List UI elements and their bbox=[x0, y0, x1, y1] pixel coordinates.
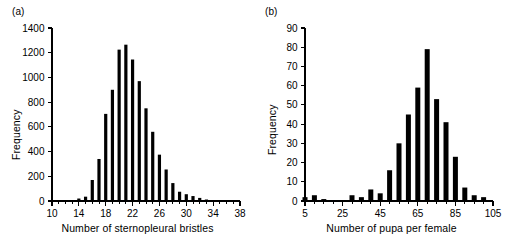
panel-a-bar bbox=[91, 180, 94, 201]
panel-a-y-tick-label: 400 bbox=[28, 146, 45, 157]
panel-a-bar bbox=[104, 114, 107, 201]
panel-b-bar bbox=[434, 99, 439, 201]
panel-a-bar bbox=[191, 196, 194, 201]
panel-a-bar bbox=[77, 199, 80, 201]
panel-a-bar bbox=[144, 108, 147, 201]
panel-a-y-axis-label: Frequency bbox=[10, 109, 22, 160]
panel-a-x-tick-label: 34 bbox=[208, 208, 220, 219]
panel-b-x-axis-label: Number of pupa per female bbox=[253, 222, 506, 234]
panel-b-x-tick-label: 5 bbox=[302, 208, 308, 219]
panel-a-x-tick-label: 18 bbox=[100, 208, 112, 219]
panel-a-bar bbox=[165, 169, 168, 201]
panel-a-bar bbox=[171, 183, 174, 201]
panel-b-y-tick-label: 60 bbox=[286, 80, 298, 91]
panel-b-bar bbox=[368, 189, 373, 201]
panel-a-y-tick-label: 200 bbox=[28, 171, 45, 182]
panel-b-bar bbox=[350, 195, 355, 201]
panel-a-bar bbox=[151, 132, 154, 201]
panel-b-bar bbox=[303, 197, 308, 201]
panel-a-x-tick-label: 38 bbox=[234, 208, 246, 219]
panel-a-bar bbox=[138, 81, 141, 201]
panel-b-bar bbox=[453, 157, 458, 201]
panel-b-bar bbox=[481, 197, 486, 201]
panel-a-bar bbox=[118, 50, 121, 201]
panel-b-y-tick-label: 70 bbox=[286, 61, 298, 72]
panel-b-y-axis-label: Frequency bbox=[266, 104, 278, 155]
panel-b-y-tick-label: 30 bbox=[286, 138, 298, 149]
panel-a-y-tick-label: 1400 bbox=[22, 23, 45, 34]
panel-b-x-tick-label: 65 bbox=[412, 208, 424, 219]
panel-a-bar bbox=[158, 155, 161, 201]
panel-a: (a) Frequency Number of sternopleural br… bbox=[0, 0, 253, 244]
panel-a-y-tick-label: 0 bbox=[39, 196, 45, 207]
panel-b-x-tick-label: 105 bbox=[485, 208, 502, 219]
panel-a-bar bbox=[198, 198, 201, 201]
panel-b: (b) Frequency Number of pupa per female … bbox=[253, 0, 506, 244]
panel-b-bar bbox=[397, 143, 402, 201]
panel-b-chart-svg: 0102030405060708090525456585105 bbox=[305, 28, 493, 201]
panel-b-bar bbox=[406, 115, 411, 202]
panel-b-y-tick-label: 80 bbox=[286, 42, 298, 53]
panel-a-x-tick-label: 22 bbox=[127, 208, 139, 219]
panel-a-bar bbox=[111, 90, 114, 201]
panel-b-x-tick-label: 85 bbox=[450, 208, 462, 219]
figure-container: (a) Frequency Number of sternopleural br… bbox=[0, 0, 507, 244]
panel-b-y-tick-label: 10 bbox=[286, 176, 298, 187]
panel-a-y-tick-label: 800 bbox=[28, 97, 45, 108]
panel-a-y-tick-label: 1000 bbox=[22, 72, 45, 83]
panel-b-bar bbox=[359, 197, 364, 201]
panel-b-y-tick-label: 90 bbox=[286, 23, 298, 34]
panel-b-y-tick-label: 20 bbox=[286, 157, 298, 168]
panel-b-plot-area: 0102030405060708090525456585105 bbox=[305, 28, 493, 201]
panel-a-bar bbox=[185, 194, 188, 201]
panel-b-y-tick-label: 0 bbox=[292, 196, 298, 207]
panel-a-x-tick-label: 30 bbox=[181, 208, 193, 219]
panel-b-bar bbox=[387, 170, 392, 201]
panel-a-plot-area: 0200400600800100012001400101418222630343… bbox=[52, 28, 240, 201]
panel-a-bar bbox=[84, 197, 87, 201]
panel-a-chart-svg: 0200400600800100012001400101418222630343… bbox=[52, 28, 240, 201]
panel-a-y-tick-label: 1200 bbox=[22, 47, 45, 58]
panel-b-tag: (b) bbox=[265, 6, 278, 17]
panel-a-bar bbox=[178, 192, 181, 201]
panel-b-bar bbox=[472, 195, 477, 201]
panel-b-bar bbox=[425, 49, 430, 201]
panel-a-bar bbox=[131, 60, 134, 201]
panel-b-x-tick-label: 25 bbox=[337, 208, 349, 219]
panel-a-bar bbox=[124, 45, 127, 201]
panel-b-bar bbox=[415, 88, 420, 201]
panel-a-y-tick-label: 600 bbox=[28, 121, 45, 132]
panel-a-bar bbox=[97, 159, 100, 201]
panel-a-x-tick-label: 26 bbox=[154, 208, 166, 219]
panel-b-bar bbox=[462, 188, 467, 201]
panel-b-y-tick-label: 50 bbox=[286, 99, 298, 110]
panel-b-bar bbox=[312, 195, 317, 201]
panel-a-x-axis-label: Number of sternopleural bristles bbox=[0, 222, 253, 234]
panel-a-tag: (a) bbox=[12, 6, 25, 17]
panel-b-bar bbox=[444, 122, 449, 201]
panel-b-bar bbox=[321, 199, 326, 201]
panel-b-bar bbox=[378, 193, 383, 201]
panel-a-x-tick-label: 14 bbox=[73, 208, 85, 219]
panel-b-x-tick-label: 45 bbox=[375, 208, 387, 219]
panel-a-bar bbox=[205, 200, 208, 201]
panel-a-x-tick-label: 10 bbox=[46, 208, 58, 219]
panel-b-y-tick-label: 40 bbox=[286, 119, 298, 130]
